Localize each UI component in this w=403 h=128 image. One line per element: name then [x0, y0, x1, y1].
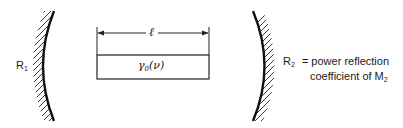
r2-description-line1: power reflection — [311, 55, 389, 67]
ell-symbol: ℓ — [149, 25, 154, 39]
r2-subscript: 2 — [291, 61, 295, 68]
mirror-left-label: R1 — [16, 59, 28, 71]
r2-description-line2: coefficient of M — [310, 70, 384, 82]
left-mirror-surface — [43, 11, 54, 121]
gamma-symbol: γ — [138, 59, 145, 72]
right-mirror-surface — [253, 11, 265, 121]
equals-sign: = — [302, 55, 308, 67]
gain-medium-label: γ0(ν) — [138, 60, 164, 72]
mirror-right-label-line1: R2 =power reflection — [283, 55, 389, 67]
r1-letter: R — [16, 59, 24, 71]
m2-subscript: 2 — [384, 76, 388, 83]
arrowhead-right-icon — [202, 31, 209, 36]
r2-letter: R — [283, 55, 291, 67]
length-label: ℓ — [148, 26, 155, 38]
gamma-argument: (ν) — [149, 59, 164, 72]
mirror-right-label-line2: coefficient of M2 — [310, 70, 388, 82]
arrowhead-left-icon — [98, 31, 105, 36]
r1-subscript: 1 — [24, 65, 28, 72]
